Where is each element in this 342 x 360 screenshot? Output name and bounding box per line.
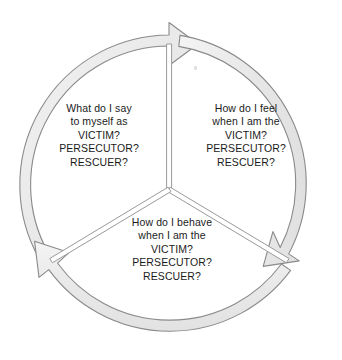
scan-artifact-speck (194, 66, 197, 70)
segment-label-feel-line-1: How do I feel (183, 102, 309, 115)
segment-label-say-line-3: VICTIM? (36, 129, 162, 142)
segment-label-feel-line-2: when I am the (183, 115, 309, 128)
cycle-diagram: What do I say to myself as VICTIM? PERSE… (0, 0, 342, 360)
segment-label-say: What do I say to myself as VICTIM? PERSE… (36, 102, 162, 169)
segment-label-say-line-2: to myself as (36, 115, 162, 128)
divider-up (167, 44, 172, 188)
segment-label-feel: How do I feel when I am the VICTIM? PERS… (183, 102, 309, 169)
segment-label-say-line-1: What do I say (36, 102, 162, 115)
segment-label-behave-line-2: when I am the (106, 229, 238, 242)
segment-label-feel-line-5: RESCUER? (183, 156, 309, 169)
segment-label-behave-line-3: VICTIM? (106, 243, 238, 256)
segment-label-feel-line-3: VICTIM? (183, 129, 309, 142)
segment-label-feel-line-4: PERSECUTOR? (183, 142, 309, 155)
segment-label-say-line-5: RESCUER? (36, 156, 162, 169)
cycle-diagram-graphic (0, 0, 342, 360)
segment-label-behave: How do I behave when I am the VICTIM? PE… (106, 216, 238, 283)
segment-label-behave-line-5: RESCUER? (106, 270, 238, 283)
segment-label-behave-line-1: How do I behave (106, 216, 238, 229)
segment-label-say-line-4: PERSECUTOR? (36, 142, 162, 155)
segment-label-behave-line-4: PERSECUTOR? (106, 256, 238, 269)
